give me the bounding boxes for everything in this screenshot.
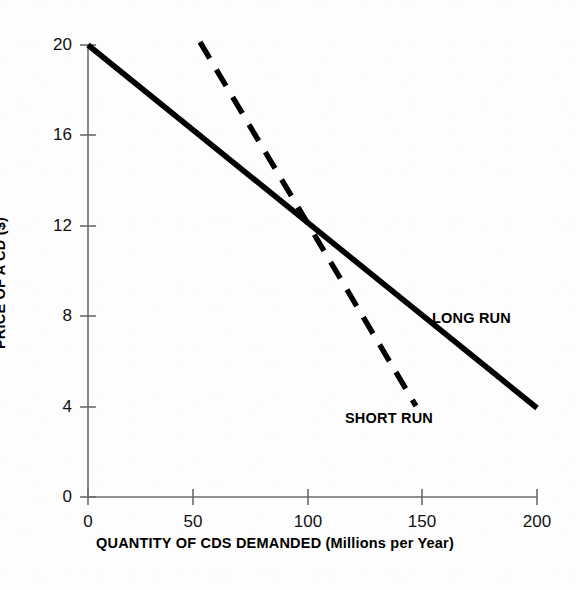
x-tick-label-100: 100 bbox=[294, 512, 322, 532]
short-run-curve-label: SHORT RUN bbox=[345, 410, 433, 426]
y-tick-label-8: 8 bbox=[44, 306, 72, 326]
y-axis-title: PRICE OF A CD ($) bbox=[0, 217, 8, 349]
x-tick-label-200: 200 bbox=[523, 512, 551, 532]
plot-area bbox=[0, 0, 580, 590]
x-tick-label-150: 150 bbox=[408, 512, 436, 532]
long-run-demand-curve bbox=[88, 45, 537, 408]
x-tick-label-0: 0 bbox=[83, 512, 92, 532]
x-tick-label-50: 50 bbox=[184, 512, 203, 532]
long-run-curve-label: LONG RUN bbox=[432, 310, 511, 326]
y-tick-label-12: 12 bbox=[44, 216, 72, 236]
y-tick-label-20: 20 bbox=[44, 35, 72, 55]
y-tick-label-4: 4 bbox=[44, 397, 72, 417]
demand-curve-chart: 20 16 12 8 4 0 0 50 100 150 200 QUANTITY… bbox=[0, 0, 580, 590]
x-axis-title: QUANTITY OF CDS DEMANDED (Millions per Y… bbox=[96, 535, 454, 551]
y-tick-label-16: 16 bbox=[44, 125, 72, 145]
y-tick-label-0: 0 bbox=[44, 487, 72, 507]
